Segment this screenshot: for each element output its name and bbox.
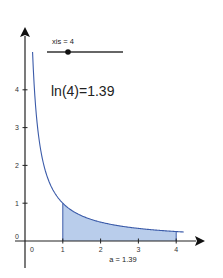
x-tick-label: 3 <box>136 246 140 253</box>
function-curve <box>33 52 184 232</box>
area-label: a = 1.39 <box>109 255 136 264</box>
result-text: ln(4)=1.39 <box>51 83 115 99</box>
y-tick-label: 1 <box>15 200 19 207</box>
y-tick-label: 0 <box>15 233 19 240</box>
x-tick-label: 4 <box>174 246 178 253</box>
x-tick-label: 2 <box>99 246 103 253</box>
x-tick-label: 1 <box>61 246 65 253</box>
y-axis <box>20 27 30 268</box>
y-axis-ticks: 01234 <box>15 86 27 240</box>
y-axis-arrow-icon <box>20 27 30 37</box>
y-tick-label: 3 <box>15 124 19 131</box>
shaded-area-region <box>63 203 176 241</box>
y-tick-label: 2 <box>15 162 19 169</box>
x-tick-label: 0 <box>30 246 34 253</box>
x-axis-arrow-icon <box>195 236 205 246</box>
slider-label: xis = 4 <box>52 37 74 46</box>
xis-slider[interactable]: xis = 4 <box>47 37 123 55</box>
slider-handle[interactable] <box>65 49 71 55</box>
function-plot: 01234 01234 xis = 4 ln(4)=1.39 a = 1.39 <box>0 0 223 278</box>
y-tick-label: 4 <box>15 86 19 93</box>
